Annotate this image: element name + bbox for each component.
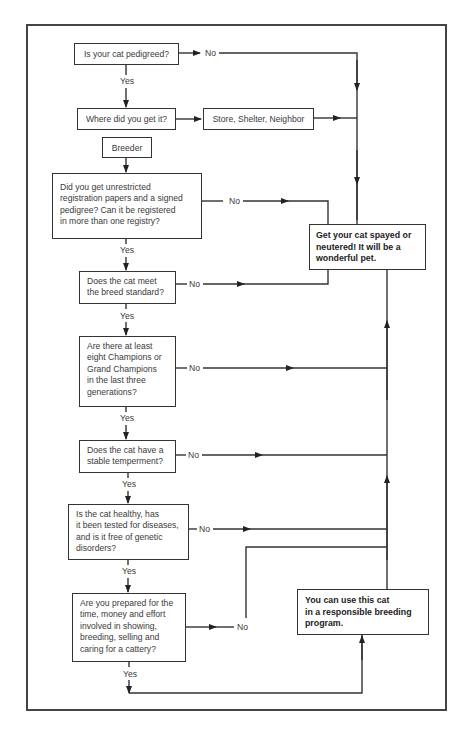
label-no: No xyxy=(188,279,201,289)
label-yes: Yes xyxy=(121,479,137,489)
label-no: No xyxy=(188,363,201,373)
option-store-shelter-neighbor: Store, Shelter, Neighbor xyxy=(203,108,314,130)
result-breeding-program: You can use this cat in a responsible br… xyxy=(297,589,429,635)
label-yes: Yes xyxy=(122,669,138,679)
question-temperament: Does the cat have a stable temperment? xyxy=(79,440,176,473)
label-no: No xyxy=(204,48,217,58)
option-breeder: Breeder xyxy=(102,137,152,158)
label-yes: Yes xyxy=(119,245,135,255)
question-where-obtained: Where did you get it? xyxy=(77,108,176,130)
question-champions: Are there at least eight Champions or Gr… xyxy=(79,336,176,407)
label-yes: Yes xyxy=(119,76,135,86)
label-yes: Yes xyxy=(119,311,135,321)
question-pedigreed: Is your cat pedigreed? xyxy=(74,43,179,65)
label-no: No xyxy=(187,450,200,460)
label-yes: Yes xyxy=(121,566,137,576)
question-healthy: Is the cat healthy, has it been tested f… xyxy=(68,504,189,560)
question-registration-papers: Did you get unrestricted registration pa… xyxy=(52,173,202,239)
question-breed-standard: Does the cat meet the breed standard? xyxy=(79,271,176,304)
result-spay-neuter: Get your cat spayed or neutered! It will… xyxy=(309,224,426,270)
label-no: No xyxy=(236,622,249,632)
question-prepared: Are you prepared for the time, money and… xyxy=(72,593,186,662)
label-yes: Yes xyxy=(119,413,135,423)
label-no: No xyxy=(228,196,241,206)
label-no: No xyxy=(198,524,211,534)
